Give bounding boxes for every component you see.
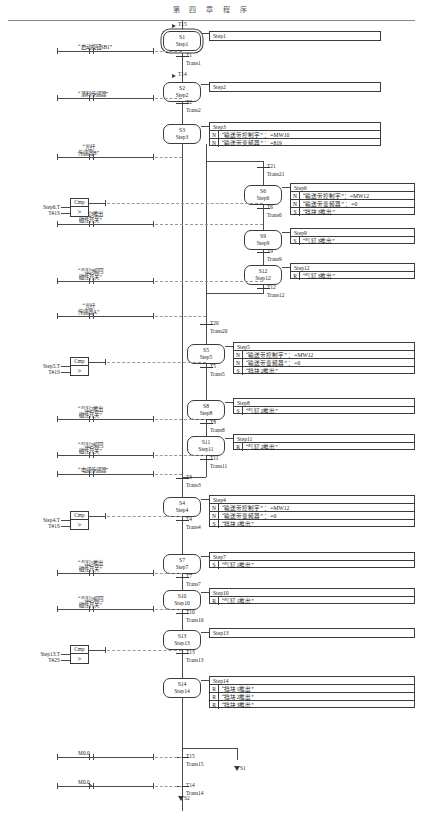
transition-name-T14: T14	[186, 782, 195, 788]
step-block-Step7[interactable]: S7Step7	[163, 554, 201, 574]
contact-bar-a-5[interactable]	[89, 313, 90, 319]
contact-bar-a-0[interactable]	[89, 48, 90, 54]
action-row: N“输送带变频器” ：=0	[210, 512, 414, 520]
contact-bar-b-4[interactable]	[93, 278, 94, 284]
contact-bar-a-10[interactable]	[89, 606, 90, 612]
action-row: N“输送带变频器” ：=0	[291, 200, 414, 208]
rung-right-bar-0	[153, 48, 154, 54]
step-block-Step9[interactable]: S9Step9	[244, 230, 282, 250]
action-block-Step5[interactable]: Step5N“输送带控制字” ：=MW12N“输送带变频器” ：=0S“挡块2推…	[233, 342, 415, 374]
step-block-Step12[interactable]: S12Step12	[244, 265, 282, 285]
action-block-Step1[interactable]: Step1	[209, 31, 381, 41]
contact-bar-b-10[interactable]	[93, 606, 94, 612]
contact-bar-b-3[interactable]	[93, 221, 94, 227]
contact-bar-a-6[interactable]	[89, 416, 90, 422]
transition-id-Trans9: Trans9	[267, 256, 282, 262]
action-block-Step14[interactable]: Step14R“挡块1推出”R“挡块2推出”R“挡块3推出”	[209, 676, 415, 708]
contact-bar-a-7[interactable]	[89, 452, 90, 458]
bottom-branch-h	[182, 748, 237, 749]
step-name: Step11	[188, 446, 224, 453]
action-qualifier: S	[291, 208, 300, 216]
transition-name-T13: T13	[186, 649, 195, 655]
action-block-Step7[interactable]: Step7S“气缸1推出”	[209, 552, 415, 568]
action-block-Step12[interactable]: Step12R“气缸3推出”	[290, 263, 415, 279]
rung-dashed-link-1	[155, 98, 182, 99]
step-block-Step8[interactable]: S8Step8	[187, 400, 225, 420]
jump-out-label-S2: S2	[184, 795, 190, 801]
step-block-Step4[interactable]: S4Step4	[163, 497, 201, 517]
step-id: S6	[245, 188, 281, 195]
rung-line-0	[57, 51, 153, 52]
action-qualifier: S	[234, 367, 243, 375]
action-statement: “输送带变频器” ：=0	[219, 512, 414, 519]
action-qualifier: N	[210, 512, 219, 519]
step-block-Step13[interactable]: S13Step13	[163, 630, 201, 650]
action-statement: “挡块1推出”	[219, 520, 414, 528]
step-action-link-Step13	[201, 632, 209, 633]
step-block-Step11[interactable]: S11Step11	[187, 436, 225, 456]
contact-bar-a-3[interactable]	[89, 221, 90, 227]
step-block-Step14[interactable]: S14Step14	[163, 678, 201, 698]
comparator-block-2[interactable]: Cmp>	[70, 511, 89, 530]
contact-bar-a-9[interactable]	[89, 570, 90, 576]
step-block-Step1[interactable]: S1Step1	[163, 31, 201, 51]
action-row: R“气缸2推出”	[234, 443, 414, 451]
contact-bar-a-11[interactable]	[89, 754, 90, 760]
step-id: S10	[164, 593, 200, 600]
action-block-Step11[interactable]: Step11R“气缸2推出”	[233, 434, 415, 450]
action-block-title: Step6	[291, 184, 414, 192]
action-block-Step3[interactable]: Step3N“输送带控制字” ：=MW10N“输送带变频器” ：=819	[209, 122, 381, 146]
comparator-in2-label-3: T#2S	[28, 657, 60, 663]
contact-bar-a-8[interactable]	[89, 471, 90, 477]
comparator-out-tick-2	[105, 513, 106, 519]
step-block-Step10[interactable]: S10Step10	[163, 590, 201, 610]
step-action-link-Step9	[282, 232, 290, 233]
action-qualifier: R	[210, 685, 219, 692]
step-name: Step6	[245, 195, 281, 202]
action-block-title: Step2	[210, 83, 380, 91]
rung-right-bar-5	[153, 313, 154, 319]
contact-label-4: “气缸3缩回磁性开关”	[78, 268, 103, 281]
step-action-link-Step12	[282, 267, 290, 268]
action-statement: “输送带控制字”：=MW12	[300, 192, 414, 199]
rung-right-bar-1	[153, 95, 154, 101]
contact-bar-b-11[interactable]	[93, 754, 94, 760]
contact-bar-b-6[interactable]	[93, 416, 94, 422]
action-block-Step2[interactable]: Step2	[209, 82, 381, 92]
comparator-operator: >	[71, 654, 88, 665]
contact-bar-b-2[interactable]	[93, 154, 94, 160]
contact-bar-b-5[interactable]	[93, 313, 94, 319]
action-block-Step6[interactable]: Step6N“输送带控制字”：=MW12N“输送带变频器” ：=0S“挡块3推出…	[290, 183, 415, 215]
action-qualifier: S	[210, 520, 219, 528]
contact-bar-a-1[interactable]	[89, 95, 90, 101]
action-block-Step8[interactable]: Step8S“气缸2推出”	[233, 398, 415, 414]
action-qualifier: N	[210, 504, 219, 511]
action-block-Step10[interactable]: Step10R“气缸1推出”	[209, 588, 415, 604]
contact-bar-b-1[interactable]	[93, 95, 94, 101]
comparator-block-0[interactable]: Cmp>	[70, 198, 89, 217]
action-block-title: Step4	[210, 496, 414, 504]
rung-line-7	[57, 455, 153, 456]
contact-bar-b-8[interactable]	[93, 471, 94, 477]
contact-bar-a-2[interactable]	[89, 154, 90, 160]
comparator-out-tick-0	[105, 200, 106, 206]
contact-bar-b-9[interactable]	[93, 570, 94, 576]
action-qualifier: N	[234, 351, 243, 358]
comparator-block-1[interactable]: Cmp>	[70, 357, 89, 376]
step-block-Step3[interactable]: S3Step3	[163, 124, 201, 144]
step-block-Step6[interactable]: S6Step6	[244, 185, 282, 205]
comparator-in2-line-0	[61, 213, 70, 214]
step-name: Step8	[188, 410, 224, 417]
action-block-Step4[interactable]: Step4N“输送带控制字” ：=MW12N“输送带变频器” ：=0S“挡块1推…	[209, 495, 415, 527]
comparator-in2-line-2	[61, 526, 70, 527]
branch-h-bottom	[206, 293, 264, 294]
contact-bar-b-7[interactable]	[93, 452, 94, 458]
rung-line-11	[57, 757, 153, 758]
action-block-Step9[interactable]: Step9S“气缸3推出”	[290, 228, 415, 244]
contact-bar-b-0[interactable]	[93, 48, 94, 54]
step-block-Step2[interactable]: S2Step2	[163, 82, 201, 102]
comparator-block-3[interactable]: Cmp>	[70, 645, 89, 664]
step-block-Step5[interactable]: S5Step5	[187, 344, 225, 364]
action-block-Step13[interactable]: Step13	[209, 628, 415, 638]
contact-bar-a-4[interactable]	[89, 278, 90, 284]
